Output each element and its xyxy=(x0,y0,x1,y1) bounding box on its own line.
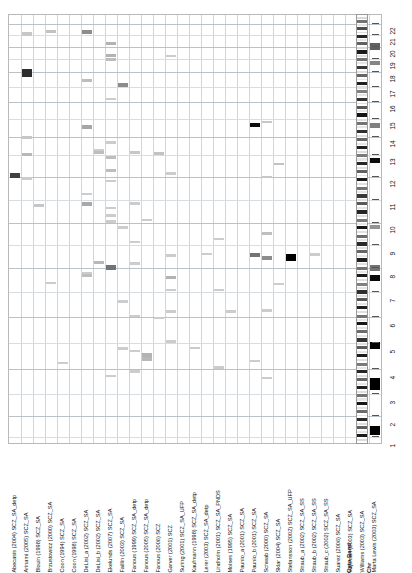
heatmap-cell[interactable] xyxy=(250,253,261,257)
heatmap-cell[interactable] xyxy=(82,79,93,82)
cytoband xyxy=(357,398,367,400)
heatmap-cell[interactable] xyxy=(130,370,141,373)
cytoband xyxy=(357,90,367,93)
chromosome-gridline xyxy=(9,292,381,293)
heatmap-cell[interactable] xyxy=(106,207,117,210)
heatmap-cell[interactable] xyxy=(274,163,285,166)
heatmap-cell[interactable] xyxy=(22,136,33,139)
heatmap-cell[interactable] xyxy=(22,153,33,156)
heatmap-cell[interactable] xyxy=(34,204,45,207)
heatmap-cell[interactable] xyxy=(106,214,117,217)
heatmap-cell[interactable] xyxy=(142,219,153,222)
heatmap-cell[interactable] xyxy=(82,30,93,34)
heatmap-cell[interactable] xyxy=(202,253,213,256)
study-label: Fanous (1999) SCZ_SA_detp xyxy=(132,499,138,573)
cytoband xyxy=(357,386,367,389)
heatmap-cell[interactable] xyxy=(82,193,93,196)
cytoband xyxy=(357,62,367,64)
heatmap-cell[interactable] xyxy=(106,220,117,223)
heatmap-cell[interactable] xyxy=(82,125,93,129)
heatmap-cell[interactable] xyxy=(46,30,57,33)
heatmap-cell[interactable] xyxy=(214,289,225,292)
heatmap-cell[interactable] xyxy=(262,232,273,235)
heatmap-cell[interactable] xyxy=(22,32,33,36)
heatmap-cell[interactable] xyxy=(166,289,177,292)
heatmap-cell[interactable] xyxy=(262,176,273,179)
heatmap-cell[interactable] xyxy=(250,123,261,127)
heatmap-cell[interactable] xyxy=(82,202,93,206)
heatmap-cell[interactable] xyxy=(166,276,177,279)
heatmap-cell[interactable] xyxy=(106,141,117,144)
cytoband xyxy=(357,242,367,245)
cytoband xyxy=(357,367,367,369)
heatmap-cell[interactable] xyxy=(154,317,165,320)
column-gridline xyxy=(153,15,154,443)
column-gridline xyxy=(69,15,70,443)
heatmap-cell[interactable] xyxy=(106,42,117,45)
chromosome-number-19: 19 xyxy=(390,62,397,69)
heatmap-cell[interactable] xyxy=(46,282,57,285)
heatmap-cell[interactable] xyxy=(166,55,177,58)
heatmap-cell[interactable] xyxy=(166,254,177,257)
heatmap-cell[interactable] xyxy=(118,226,129,229)
heatmap-cell[interactable] xyxy=(130,315,141,318)
heatmap-cell[interactable] xyxy=(214,366,225,369)
heatmap-cell[interactable] xyxy=(166,172,177,175)
heatmap-cell[interactable] xyxy=(106,375,117,378)
heatmap-cell[interactable] xyxy=(118,347,129,350)
heatmap-cell[interactable] xyxy=(226,310,237,313)
chromosome-tick xyxy=(372,34,379,35)
heatmap-cell[interactable] xyxy=(106,180,117,183)
heatmap-plot-area[interactable] xyxy=(8,14,382,444)
heatmap-cell[interactable] xyxy=(58,362,69,365)
heatmap-cell[interactable] xyxy=(166,340,177,343)
heatmap-cell[interactable] xyxy=(106,54,117,57)
heatmap-cell[interactable] xyxy=(274,283,285,286)
heatmap-cell[interactable] xyxy=(142,357,153,360)
cytoband xyxy=(357,207,367,209)
cytoband xyxy=(357,17,367,19)
heatmap-cell[interactable] xyxy=(286,254,297,261)
heatmap-cell[interactable] xyxy=(22,177,33,180)
heatmap-cell[interactable] xyxy=(10,173,21,179)
heatmap-cell[interactable] xyxy=(94,149,105,152)
heatmap-cell[interactable] xyxy=(106,156,117,159)
chromosome-gridline xyxy=(9,416,381,417)
heatmap-cell[interactable] xyxy=(166,310,177,313)
heatmap-cell[interactable] xyxy=(250,360,261,363)
heatmap-cell[interactable] xyxy=(142,353,153,356)
heatmap-cell[interactable] xyxy=(310,253,321,256)
study-label: Schwab (2000) SCZ_SA xyxy=(264,512,270,573)
heatmap-cell[interactable] xyxy=(118,83,129,87)
heatmap-cell[interactable] xyxy=(262,377,273,380)
heatmap-cell[interactable] xyxy=(106,265,117,270)
heatmap-cell[interactable] xyxy=(118,300,129,303)
chromosome-gridline xyxy=(9,119,381,120)
heatmap-cell[interactable] xyxy=(106,98,117,101)
heatmap-cell[interactable] xyxy=(94,151,105,154)
heatmap-cell[interactable] xyxy=(130,241,141,244)
heatmap-cell[interactable] xyxy=(130,202,141,205)
heatmap-cell[interactable] xyxy=(130,350,141,353)
chromosome-number-8: 8 xyxy=(390,275,397,279)
heatmap-cell[interactable] xyxy=(22,69,33,76)
cytoband xyxy=(357,226,367,229)
heatmap-cell[interactable] xyxy=(190,347,201,350)
heatmap-cell[interactable] xyxy=(214,238,225,241)
heatmap-cell[interactable] xyxy=(262,121,273,124)
chromosome-gridline xyxy=(9,343,381,344)
heatmap-cell[interactable] xyxy=(106,58,117,61)
heatmap-cell[interactable] xyxy=(262,309,273,312)
chromosome-gridline xyxy=(9,59,381,60)
heatmap-cell[interactable] xyxy=(82,274,93,277)
chromosome-number-2: 2 xyxy=(390,423,397,427)
heatmap-cell[interactable] xyxy=(82,272,93,275)
heatmap-cell[interactable] xyxy=(262,256,273,260)
heatmap-cell[interactable] xyxy=(94,261,105,264)
cytoband xyxy=(357,215,367,217)
heatmap-cell[interactable] xyxy=(154,152,165,155)
heatmap-cell[interactable] xyxy=(106,169,117,172)
heatmap-cell[interactable] xyxy=(130,151,141,154)
heatmap-cell[interactable] xyxy=(130,262,141,265)
study-label: Straub_a (2002) SCZ_SA_SS xyxy=(300,499,306,573)
